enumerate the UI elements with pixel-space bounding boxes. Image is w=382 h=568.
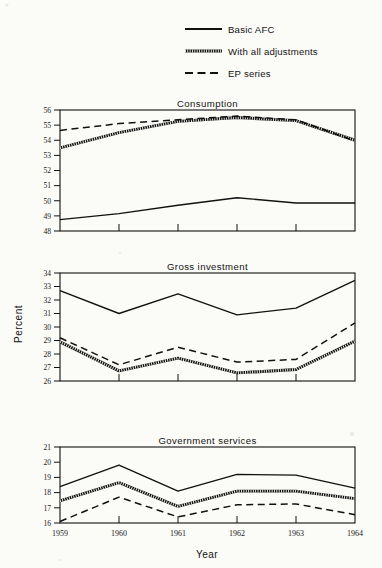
y-tick-label: 26 (43, 377, 51, 386)
figure-background (0, 0, 382, 568)
x-tick-label: 1961 (170, 529, 186, 538)
y-tick-label: 18 (43, 488, 51, 497)
y-tick-label: 32 (43, 296, 51, 305)
x-tick-label: 1960 (111, 529, 127, 538)
figure-root: Basic AFC With all adjustments EP series… (0, 0, 382, 568)
y-tick-label: 29 (43, 336, 51, 345)
y-tick-label: 48 (43, 227, 51, 236)
y-tick-label: 31 (43, 309, 51, 318)
y-tick-label: 20 (43, 458, 51, 467)
x-tick-label: 1964 (347, 529, 363, 538)
y-tick-label: 50 (43, 197, 51, 206)
multi-panel-line-chart: Basic AFC With all adjustments EP series… (0, 0, 382, 568)
y-tick-label: 16 (43, 519, 51, 528)
x-axis-title: Year (196, 549, 218, 560)
y-tick-label: 27 (43, 363, 51, 372)
y-axis-title: Percent (13, 305, 24, 343)
y-tick-label: 56 (43, 106, 51, 115)
y-tick-label: 55 (43, 121, 51, 130)
y-tick-label: 49 (43, 212, 51, 221)
y-tick-label: 30 (43, 323, 51, 332)
panel-title: Consumption (177, 98, 238, 109)
y-tick-label: 52 (43, 166, 51, 175)
x-tick-label: 1959 (52, 529, 68, 538)
legend-label-ep-series: EP series (228, 68, 271, 79)
x-tick-label: 1963 (288, 529, 304, 538)
x-tick-label: 1962 (229, 529, 245, 538)
y-tick-label: 51 (43, 181, 51, 190)
panel-title: Government services (158, 435, 256, 446)
legend-label-basic-afc: Basic AFC (228, 24, 275, 35)
panel-title: Gross investment (167, 261, 248, 272)
y-tick-label: 54 (43, 136, 51, 145)
y-tick-label: 21 (43, 443, 51, 452)
y-tick-label: 28 (43, 350, 51, 359)
legend-label-with-all-adjustments: With all adjustments (228, 46, 318, 57)
y-tick-label: 33 (43, 282, 51, 291)
y-tick-label: 53 (43, 151, 51, 160)
y-tick-label: 19 (43, 473, 51, 482)
y-tick-label: 34 (43, 269, 51, 278)
y-tick-label: 17 (43, 504, 51, 513)
